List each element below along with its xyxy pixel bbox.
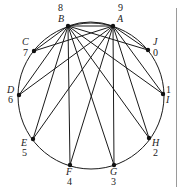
edge-A-G	[113, 26, 114, 165]
node-number-A: 9	[118, 2, 123, 13]
node-B	[66, 24, 70, 28]
node-J	[146, 48, 150, 52]
node-I	[161, 92, 165, 96]
node-number-I: 1	[166, 84, 171, 95]
node-number-D: 6	[8, 94, 13, 105]
node-letter-I: I	[165, 94, 170, 105]
edge-B-C	[34, 26, 68, 51]
node-C	[32, 49, 36, 53]
node-letter-J: J	[153, 36, 158, 47]
edge-A-H	[113, 26, 149, 138]
node-E	[31, 137, 35, 141]
node-A	[111, 24, 115, 28]
edge-B-E	[33, 26, 68, 139]
edge-A-F	[70, 26, 113, 165]
complete-bipartite-circle-diagram: A9B8C7D6E5F4G3H2I1J0	[0, 0, 178, 187]
node-number-B: 8	[58, 2, 63, 13]
edge-A-J	[113, 26, 148, 50]
edge-A-D	[19, 26, 113, 95]
node-number-G: 3	[111, 176, 116, 187]
node-letter-B: B	[58, 13, 64, 24]
node-letter-C: C	[22, 36, 29, 47]
node-number-C: 7	[23, 47, 28, 58]
right-margin-rule	[176, 8, 177, 187]
node-number-J: 0	[153, 47, 158, 58]
node-number-E: 5	[22, 147, 27, 158]
node-H	[147, 136, 151, 140]
edge-B-F	[68, 26, 70, 165]
node-number-F: 4	[67, 176, 72, 187]
node-number-H: 2	[153, 147, 158, 158]
node-D	[17, 93, 21, 97]
node-letter-A: A	[116, 13, 124, 24]
labels-group: A9B8C7D6E5F4G3H2I1J0	[6, 2, 171, 187]
